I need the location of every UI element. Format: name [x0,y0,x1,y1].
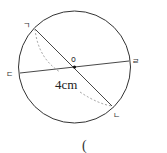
measurement-label: 4cm [55,77,77,92]
center-point [73,65,76,68]
point-label-digeut: ㄷ [6,70,13,79]
center-label: o [71,55,76,64]
circle-diagram: o ㄱ ㄴ ㄷ ㄹ 4cm ( [0,0,167,153]
point-label-giyeok: ㄱ [23,21,30,30]
point-label-rieul: ㄹ [132,57,139,66]
dashed-arc-lower [80,92,112,106]
point-label-nieun: ㄴ [113,111,120,120]
answer-paren: ( [82,138,87,153]
